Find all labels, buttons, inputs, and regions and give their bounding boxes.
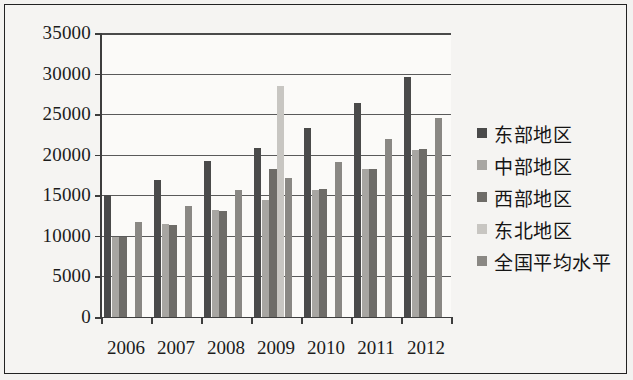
bar [169,225,176,318]
legend-item-label: 西部地区 [494,184,572,211]
x-axis-tick [151,317,153,324]
legend-item[interactable]: 西部地区 [477,181,627,213]
legend-swatch-icon [477,224,487,234]
y-axis-tick-label: 10000 [43,225,92,247]
bar [119,237,126,317]
bar [185,206,192,317]
legend-item[interactable]: 东北地区 [477,213,627,245]
x-axis-tick [101,317,103,324]
y-axis-tick-label: 15000 [43,184,92,206]
x-axis-tick-label: 2006 [107,337,145,359]
x-axis-tick [301,317,303,324]
x-axis-tick-label: 2011 [357,337,394,359]
x-axis-tick [201,317,203,324]
chart-frame: 05000100001500020000250003000035000 2006… [4,4,627,374]
x-axis-tick-label: 2009 [257,337,295,359]
x-axis-tick-label: 2012 [407,337,445,359]
legend-swatch-icon [477,128,487,138]
bar [219,211,226,317]
x-axis-tick [251,317,253,324]
x-axis-tick [351,317,353,324]
bar [369,169,376,317]
y-axis-tick-label: 5000 [52,265,91,287]
bar [269,169,276,317]
x-axis-tick [401,317,403,324]
bar-group [401,33,451,317]
bar [262,200,269,317]
x-axis-tick [451,317,453,324]
legend-item-label: 中部地区 [494,152,572,179]
legend-item[interactable]: 全国平均水平 [477,245,627,277]
bar [412,150,419,317]
legend-item-label: 东部地区 [494,120,572,147]
plot-area: 05000100001500020000250003000035000 2006… [101,33,451,317]
legend-item[interactable]: 东部地区 [477,117,627,149]
y-axis-tick-label: 20000 [43,144,92,166]
bar [135,222,142,317]
bar [419,149,426,317]
bar [404,77,411,317]
bar [385,139,392,317]
x-axis-tick-label: 2010 [307,337,345,359]
bar [285,178,292,317]
y-axis-tick-label: 0 [81,306,91,328]
x-axis-tick-label: 2008 [207,337,245,359]
chart-legend: 东部地区中部地区西部地区东北地区全国平均水平 [477,117,627,277]
bar [354,103,361,317]
y-axis-tick-label: 30000 [43,63,92,85]
bar [162,224,169,317]
bar [319,189,326,317]
bar-group [251,33,301,317]
bar [304,128,311,317]
bar [435,118,442,317]
bar [212,210,219,317]
bar [312,190,319,317]
legend-swatch-icon [477,256,487,266]
bar [154,180,161,317]
bar-group [301,33,351,317]
legend-swatch-icon [477,160,487,170]
bar [204,161,211,317]
legend-swatch-icon [477,192,487,202]
bar [335,162,342,317]
y-axis-tick-label: 25000 [43,103,92,125]
x-axis-tick-label: 2007 [157,337,195,359]
bar [277,86,284,317]
bar [254,148,261,317]
legend-item-label: 东北地区 [494,216,572,243]
legend-item-label: 全国平均水平 [494,248,611,275]
bar [235,190,242,317]
bar-group [201,33,251,317]
y-axis-tick-label: 35000 [43,22,92,44]
bar-group [151,33,201,317]
bar-group [101,33,151,317]
bar [362,169,369,317]
bar [112,237,119,317]
bar [104,195,111,317]
bar-group [351,33,401,317]
legend-item[interactable]: 中部地区 [477,149,627,181]
